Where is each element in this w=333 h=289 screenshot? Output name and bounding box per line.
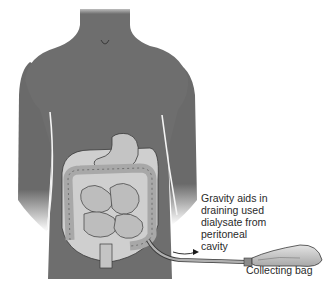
collecting-bag-label: Collecting bag (246, 264, 333, 276)
drainage-note-label: Gravity aids in draining used dialysate … (201, 192, 311, 252)
rectum (100, 244, 112, 268)
flow-arrow-head (193, 249, 199, 255)
flow-arrow (173, 252, 196, 254)
neck-fade (80, 9, 130, 19)
